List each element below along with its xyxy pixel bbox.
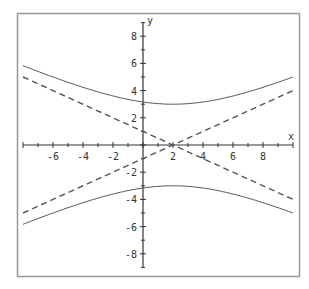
y-tick-label: 2	[131, 113, 137, 124]
x-tick-label: 8	[260, 151, 266, 162]
x-tick-label: 6	[230, 151, 236, 162]
hyperbola-chart: -6-4-224688642-2-4-6-8 x y	[0, 0, 309, 289]
y-tick-label: -2	[125, 167, 137, 178]
y-axis-label: y	[147, 15, 153, 26]
y-tick-label: 6	[131, 58, 137, 69]
y-tick-label: 8	[131, 31, 137, 42]
y-tick-label: -8	[125, 249, 137, 260]
x-tick-label: -4	[77, 151, 89, 162]
y-tick-label: 4	[131, 86, 137, 97]
x-tick-label: 4	[200, 151, 206, 162]
x-tick-label: 2	[170, 151, 176, 162]
x-axis-label: x	[288, 131, 294, 142]
x-tick-label: -6	[47, 151, 59, 162]
y-tick-label: -4	[125, 194, 137, 205]
x-tick-label: -2	[107, 151, 119, 162]
y-tick-label: -6	[125, 222, 137, 233]
